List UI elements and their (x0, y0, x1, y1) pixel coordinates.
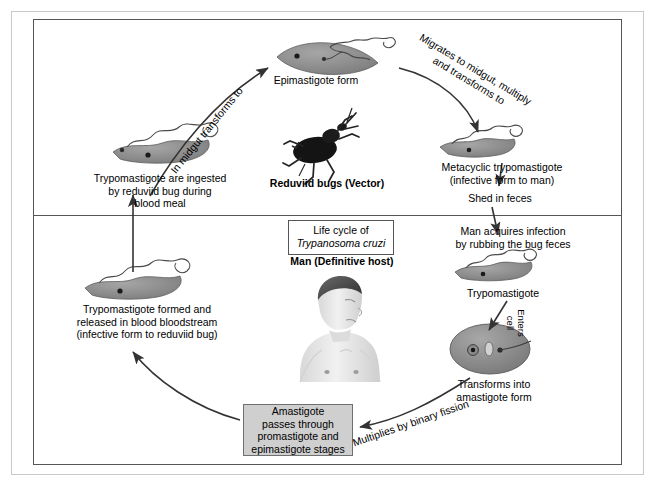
vector-caption: Reduviid bugs (Vector) (247, 177, 407, 190)
trypomastigote-left-label: Trypomastigote formed and released in bl… (47, 303, 247, 341)
man-acquires-label: Man acquires infection by rubbing the bu… (428, 225, 598, 250)
shed-in-feces-label: Shed in feces (440, 192, 560, 205)
transforms-amastigote-label: Transforms into amastigote form (434, 378, 554, 403)
vector-host-divider (34, 215, 621, 216)
metacyclic-label: Metacyclic trypomastigote (infective for… (422, 161, 582, 186)
title-line1: Life cycle of (313, 224, 368, 236)
enters-cell-label: Enters cell (505, 303, 527, 343)
title-box: Life cycle of Trypanosoma cruzi (288, 220, 394, 255)
host-caption: Man (Definitive host) (272, 255, 412, 268)
amastigote-stages-box: Amastigote passes through promastigote a… (243, 404, 353, 456)
trypomastigote-right-label: Trypomastigote (448, 287, 558, 300)
life-cycle-diagram: Epimastigote form Metacyclic trypomastig… (0, 0, 657, 492)
ingested-label: Trypomastigote are ingested by reduviid … (75, 172, 245, 210)
epimastigote-label: Epimastigote form (256, 74, 376, 87)
title-species: Trypanosoma cruzi (293, 237, 389, 250)
